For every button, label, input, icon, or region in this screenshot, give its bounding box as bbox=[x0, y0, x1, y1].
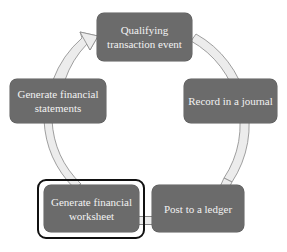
node-label: Post to a ledger bbox=[164, 202, 232, 216]
node-post-to-ledger[interactable]: Post to a ledger bbox=[152, 185, 244, 232]
cycle-ring-band-left-lower bbox=[44, 120, 81, 188]
node-label-line1: Generate financial bbox=[18, 87, 99, 101]
accounting-cycle-diagram: Qualifying transaction event Generate fi… bbox=[0, 0, 287, 252]
node-generate-financial-worksheet[interactable]: Generate financial worksheet bbox=[44, 185, 139, 232]
node-qualifying-transaction-event[interactable]: Qualifying transaction event bbox=[97, 13, 192, 61]
node-label-line1: Qualifying bbox=[121, 23, 169, 37]
node-label-line2: statements bbox=[35, 101, 81, 115]
node-generate-financial-statements[interactable]: Generate financial statements bbox=[10, 79, 106, 123]
node-record-in-journal[interactable]: Record in a journal bbox=[184, 79, 277, 123]
node-label-line1: Generate financial bbox=[51, 195, 132, 209]
node-label: Record in a journal bbox=[188, 94, 273, 108]
node-label-line2: worksheet bbox=[69, 209, 114, 223]
node-label-line2: transaction event bbox=[107, 37, 182, 51]
